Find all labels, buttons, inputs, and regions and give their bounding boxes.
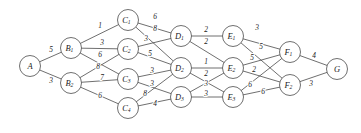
- graph-node: E1: [223, 26, 244, 47]
- edge-weight-label: 4: [153, 99, 157, 108]
- graph-node: E2: [223, 58, 244, 79]
- graph-edge: [138, 39, 171, 47]
- node-label-subscript: 2: [290, 84, 293, 90]
- graph-edge: [243, 55, 280, 65]
- node-label-subscript: 2: [181, 67, 184, 73]
- edge-weight-label: 8: [96, 62, 100, 71]
- node-label-subscript: 3: [180, 96, 184, 102]
- edge-weight-label: 8: [153, 24, 157, 33]
- graph-edge: [300, 72, 327, 81]
- graph-node: G: [327, 59, 348, 80]
- edge-weight-label: 6: [248, 80, 252, 89]
- graph-node: D3: [171, 87, 192, 108]
- edge-weight-label: 3: [203, 79, 208, 88]
- edge-weight-label: 2: [204, 69, 208, 78]
- edge-weight-label: 3: [308, 79, 313, 88]
- nodes-layer: AB1B2C1C2C3C4D1D2D3E1E2E3F1F2G: [20, 10, 348, 119]
- edge-weight-label: 2: [204, 37, 208, 46]
- node-label-subscript: 1: [128, 19, 131, 25]
- edge-weight-label: 5: [49, 45, 53, 54]
- edge-weight-label: 3: [254, 23, 259, 32]
- graph-diagram: AB1B2C1C2C3C4D1D2D3E1E2E3F1F2G 531368766…: [0, 0, 361, 133]
- graph-node: C2: [118, 39, 139, 60]
- graph-node: F1: [280, 42, 301, 63]
- node-label-subscript: 3: [232, 96, 236, 102]
- edge-weight-label: 5: [148, 49, 152, 58]
- edge-weight-label: 3: [203, 89, 208, 98]
- graph-edge: [40, 52, 62, 62]
- edge-weight-label: 6: [98, 91, 102, 100]
- edge-weight-label: 6: [98, 50, 102, 59]
- edge-weight-label: 8: [143, 89, 147, 98]
- graph-node: C1: [118, 10, 139, 31]
- edge-weight-label: 3: [149, 66, 154, 75]
- graph-node: D2: [171, 58, 192, 79]
- node-label-subscript: 3: [127, 78, 131, 84]
- node-label-subscript: 1: [71, 47, 74, 53]
- edge-weight-label: 3: [48, 76, 53, 85]
- edge-weight-label: 2: [204, 25, 208, 34]
- node-label-subscript: 1: [290, 51, 293, 57]
- node-label-subscript: 2: [233, 67, 236, 73]
- edge-weight-label: 6: [261, 87, 265, 96]
- graph-node: F2: [280, 75, 301, 96]
- edge-weight-label: 5: [259, 42, 263, 51]
- edge-weight-label: 1: [98, 21, 102, 30]
- node-label-subscript: 2: [71, 82, 74, 88]
- graph-node: C3: [118, 69, 139, 90]
- edge-weight-label: 2: [252, 65, 256, 74]
- node-label-subscript: 2: [128, 48, 131, 54]
- graph-node: B2: [61, 73, 82, 94]
- graph-node: E3: [223, 87, 244, 108]
- graph-edge: [138, 70, 170, 77]
- edge-weight-label: 5: [250, 53, 254, 62]
- edge-weight-label: 7: [100, 73, 104, 82]
- edge-weight-label: 3: [143, 34, 148, 43]
- node-label: G: [334, 64, 340, 74]
- edge-weight-label: 3: [149, 79, 154, 88]
- edge-weight-label: 3: [99, 38, 104, 47]
- graph-node: D1: [171, 26, 192, 47]
- edge-weight-label: 6: [153, 12, 157, 21]
- node-label-subscript: 1: [233, 35, 236, 41]
- graph-node: A: [20, 56, 41, 77]
- graph-node: C4: [118, 98, 139, 119]
- node-label-subscript: 1: [181, 35, 184, 41]
- edge-weight-label: 1: [204, 57, 208, 66]
- edge-weight-label: 4: [312, 51, 316, 60]
- node-label: A: [26, 61, 33, 71]
- graph-canvas: AB1B2C1C2C3C4D1D2D3E1E2E3F1F2G 531368766…: [0, 0, 361, 133]
- graph-node: B1: [61, 38, 82, 59]
- node-label-subscript: 4: [128, 107, 131, 113]
